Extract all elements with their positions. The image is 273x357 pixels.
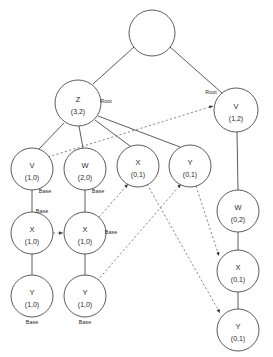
node-value-n9: (1,0) — [25, 301, 39, 309]
edge-v12-to-w02 — [237, 132, 238, 190]
label-root-z: Root — [100, 98, 112, 104]
node-value-n8: (1,0) — [78, 238, 92, 246]
node-group: Z(3,2)V(1,2)V(1,0)W(2,0)X(0,1)Y(0,1)X(1,… — [11, 10, 259, 351]
edge-label-group: RootRootBaseBaseBaseBaseBaseBase — [26, 89, 217, 325]
edge-root-to-z — [93, 47, 134, 84]
node-n12[interactable]: X(0,1) — [217, 250, 259, 292]
node-value-n6: (0,1) — [183, 171, 197, 179]
node-label-n1: Z — [76, 95, 81, 104]
edge-z-to-v10 — [39, 123, 64, 149]
label-base-y10b: Base — [79, 319, 91, 325]
node-n0[interactable] — [129, 10, 175, 56]
node-n11[interactable]: W(0,2) — [217, 190, 259, 232]
dep-x01-to-y01r — [147, 184, 220, 313]
node-label-n5: X — [135, 158, 140, 167]
node-value-n1: (3,2) — [71, 108, 85, 116]
node-label-n8: X — [82, 225, 87, 234]
node-label-n4: W — [81, 161, 89, 170]
label-base-w20: Base — [92, 188, 104, 194]
diagram-canvas: Z(3,2)V(1,2)V(1,0)W(2,0)X(0,1)Y(0,1)X(1,… — [0, 0, 273, 357]
node-value-n13: (0,1) — [231, 335, 245, 343]
label-base-y10: Base — [26, 319, 38, 325]
node-n9[interactable]: Y(1,0) — [11, 275, 53, 317]
label-base-v10: Base — [39, 188, 51, 194]
node-label-n12: X — [235, 263, 240, 272]
node-n2[interactable]: V(1,2) — [214, 88, 258, 132]
node-n1[interactable]: Z(3,2) — [55, 80, 101, 126]
node-label-n13: Y — [235, 322, 240, 331]
node-circle-n0[interactable] — [129, 10, 175, 56]
node-label-n7: X — [29, 225, 34, 234]
node-n8[interactable]: X(1,0) — [64, 212, 106, 254]
node-label-n2: V — [233, 102, 238, 111]
node-value-n11: (0,2) — [231, 216, 245, 224]
node-n7[interactable]: X(1,0) — [11, 212, 53, 254]
node-value-n3: (1,0) — [25, 174, 39, 182]
node-value-n12: (0,1) — [231, 276, 245, 284]
node-n5[interactable]: X(0,1) — [117, 145, 159, 187]
dep-y01-to-x01r — [196, 186, 219, 256]
node-n6[interactable]: Y(0,1) — [169, 145, 211, 187]
node-label-n3: V — [29, 161, 34, 170]
label-base-x10b: Base — [105, 229, 117, 235]
edge-root-to-v — [170, 47, 222, 93]
node-value-n2: (1,2) — [229, 115, 243, 123]
edge-z-to-w20 — [79, 126, 83, 148]
node-label-n9: Y — [29, 288, 34, 297]
node-n13[interactable]: Y(0,1) — [217, 309, 259, 351]
node-label-n11: W — [234, 203, 242, 212]
node-value-n7: (1,0) — [25, 238, 39, 246]
node-label-n6: Y — [187, 158, 192, 167]
node-value-n10: (1,0) — [78, 301, 92, 309]
label-root-v: Root — [205, 89, 217, 95]
graph-svg: Z(3,2)V(1,2)V(1,0)W(2,0)X(0,1)Y(0,1)X(1,… — [0, 0, 273, 357]
node-value-n5: (0,1) — [131, 171, 145, 179]
node-value-n4: (2,0) — [78, 174, 92, 182]
node-n10[interactable]: Y(1,0) — [64, 275, 106, 317]
node-n4[interactable]: W(2,0) — [64, 148, 106, 190]
node-label-n10: Y — [82, 288, 87, 297]
label-base-x10: Base — [36, 208, 48, 214]
node-n3[interactable]: V(1,0) — [11, 148, 53, 190]
